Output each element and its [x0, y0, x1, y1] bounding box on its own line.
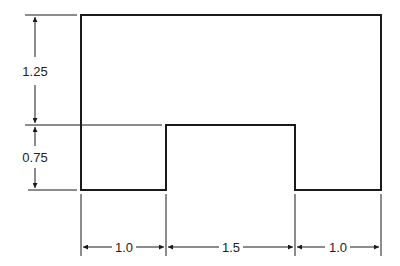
dim-label-horizontal-right: 1.0 — [329, 240, 347, 255]
part-outline — [81, 15, 381, 190]
technical-drawing: 1.25 0.75 1.0 1.5 1.0 — [0, 0, 400, 266]
dim-label-vertical-upper: 1.25 — [22, 64, 47, 79]
dim-label-vertical-lower: 0.75 — [22, 150, 47, 165]
extension-lines — [25, 15, 381, 256]
dim-label-horizontal-left: 1.0 — [115, 240, 133, 255]
dim-label-horizontal-middle: 1.5 — [222, 240, 240, 255]
